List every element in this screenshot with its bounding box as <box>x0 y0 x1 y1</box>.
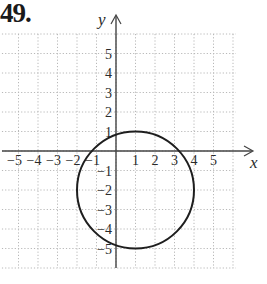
y-axis-label: y <box>96 10 106 29</box>
x-tick-label: 2 <box>152 153 159 168</box>
x-tick-label: 1 <box>132 153 139 168</box>
x-tick-label: −2 <box>66 153 81 168</box>
x-tick-label: 3 <box>171 153 178 168</box>
circle-curve <box>77 132 194 249</box>
x-tick-label: 5 <box>210 153 217 168</box>
y-tick-label: −1 <box>97 164 112 179</box>
coordinate-plane: x y −5−4−3−2−11234554321−1−2−3−4−5 <box>0 0 267 284</box>
x-tick-label: −3 <box>46 153 61 168</box>
x-tick-label: 4 <box>191 153 198 168</box>
y-tick-label: −5 <box>97 242 112 257</box>
y-tick-label: −2 <box>97 183 112 198</box>
y-tick-label: 4 <box>105 66 112 81</box>
x-tick-label: −5 <box>7 153 22 168</box>
x-axis-label: x <box>249 153 258 172</box>
y-tick-label: 3 <box>105 86 112 101</box>
y-tick-label: −3 <box>97 203 112 218</box>
y-tick-label: 2 <box>105 105 112 120</box>
x-tick-label: −4 <box>27 153 42 168</box>
y-tick-label: 5 <box>105 47 112 62</box>
